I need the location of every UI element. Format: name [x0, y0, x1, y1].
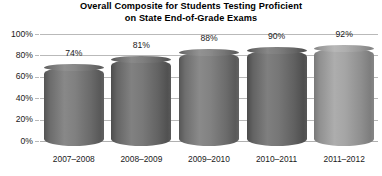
y-axis-tick-mark — [35, 141, 39, 142]
x-axis-category-label: 2011–2012 — [310, 154, 378, 164]
bar-cylinder-body — [111, 59, 171, 146]
y-axis-tick-label: 80% — [0, 51, 33, 60]
y-axis-tick-label: 100% — [0, 30, 33, 39]
bar-cylinder-top — [314, 45, 374, 52]
bar-cylinder-top — [247, 47, 307, 54]
bar-group: 90% — [243, 34, 311, 141]
bar-value-label: 90% — [268, 32, 285, 41]
y-axis-tick-label: 60% — [0, 72, 33, 81]
bar[interactable] — [247, 50, 307, 146]
bar-cylinder-body — [314, 48, 374, 146]
bar[interactable] — [111, 59, 171, 146]
y-axis-tick-mark — [35, 77, 39, 78]
bar[interactable] — [314, 48, 374, 146]
y-axis-tick-mark — [35, 98, 39, 99]
y-axis-tick-mark — [35, 55, 39, 56]
bar-cylinder-body — [247, 50, 307, 146]
bar-group: 88% — [175, 34, 243, 141]
bar-cylinder-body — [44, 67, 104, 146]
bar-cylinder-top — [44, 64, 104, 71]
bar-cylinder-top — [179, 49, 239, 56]
x-axis-category-label: 2008–2009 — [108, 154, 176, 164]
y-axis-tick-label: 20% — [0, 115, 33, 124]
bar-value-label: 88% — [200, 34, 217, 43]
x-axis-labels: 2007–20082008–20092009–20102010–20112011… — [40, 154, 378, 166]
bar-group: 74% — [40, 34, 108, 141]
bar-group: 92% — [310, 34, 378, 141]
y-axis-tick-label: 0% — [0, 137, 33, 146]
chart-title-line-1: Overall Composite for Students Testing P… — [80, 1, 302, 11]
bar-value-label: 81% — [133, 41, 150, 50]
chart-container: Overall Composite for Students Testing P… — [0, 0, 382, 176]
bar[interactable] — [179, 52, 239, 146]
y-axis-tick-mark — [35, 120, 39, 121]
bar-cylinder-body — [179, 52, 239, 146]
bar-series: 74%81%88%90%92% — [40, 34, 378, 141]
bar-value-label: 74% — [65, 49, 82, 58]
chart-title-line-2: on State End-of-Grade Exams — [0, 13, 382, 25]
bar-group: 81% — [108, 34, 176, 141]
bar-value-label: 92% — [336, 30, 353, 39]
x-axis-category-label: 2010–2011 — [243, 154, 311, 164]
chart-title: Overall Composite for Students Testing P… — [0, 1, 382, 24]
x-axis-category-label: 2007–2008 — [40, 154, 108, 164]
y-axis-tick-mark — [35, 34, 39, 35]
x-axis-category-label: 2009–2010 — [175, 154, 243, 164]
bar[interactable] — [44, 67, 104, 146]
y-axis-tick-label: 40% — [0, 94, 33, 103]
